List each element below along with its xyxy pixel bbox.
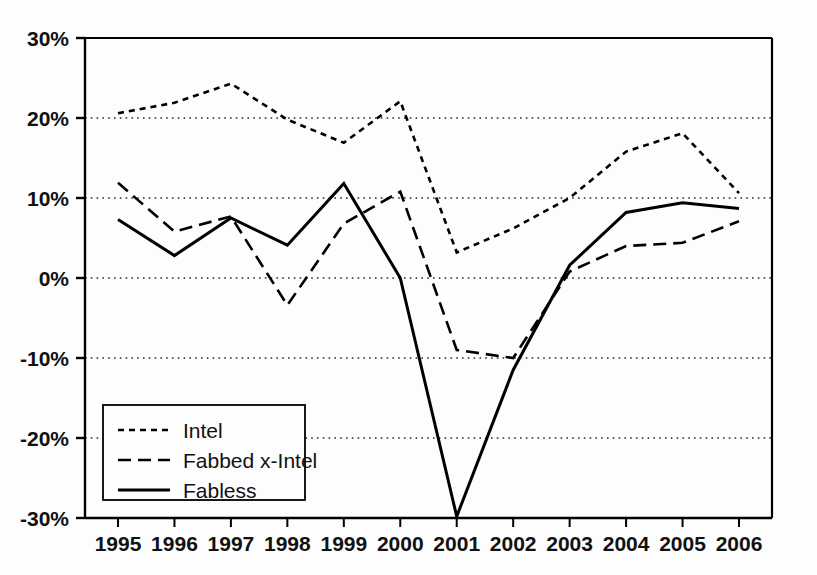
- x-axis-tick-label: 2002: [490, 532, 537, 555]
- x-axis: 1995199619971998199920002001200220032004…: [95, 518, 763, 555]
- x-axis-tick-label: 2006: [716, 532, 763, 555]
- legend-item-label: Intel: [183, 419, 223, 442]
- chart-legend: IntelFabbed x-IntelFabless: [103, 405, 317, 502]
- x-axis-tick-label: 2001: [433, 532, 480, 555]
- y-axis-tick-label: -20%: [20, 427, 69, 450]
- y-axis-tick-label: 20%: [27, 107, 69, 130]
- line-chart: 30%20%10%0%-10%-20%-30% 1995199619971998…: [0, 0, 817, 575]
- legend-item-label: Fabbed x-Intel: [183, 449, 317, 472]
- x-axis-tick-label: 1999: [320, 532, 367, 555]
- x-axis-tick-label: 1998: [264, 532, 311, 555]
- y-axis-tick-label: -10%: [20, 347, 69, 370]
- y-axis-tick-label: 30%: [27, 27, 69, 50]
- y-axis: 30%20%10%0%-10%-20%-30%: [20, 27, 85, 530]
- x-axis-tick-label: 2003: [546, 532, 593, 555]
- x-axis-tick-label: 2000: [377, 532, 424, 555]
- y-axis-tick-label: -30%: [20, 507, 69, 530]
- legend-item-label: Fabless: [183, 479, 257, 502]
- y-axis-tick-label: 10%: [27, 187, 69, 210]
- x-axis-tick-label: 2004: [603, 532, 650, 555]
- x-axis-tick-label: 1996: [151, 532, 198, 555]
- x-axis-tick-label: 1997: [208, 532, 255, 555]
- chart-container: 30%20%10%0%-10%-20%-30% 1995199619971998…: [0, 0, 817, 575]
- y-axis-tick-label: 0%: [39, 267, 70, 290]
- x-axis-tick-label: 2005: [659, 532, 706, 555]
- x-axis-tick-label: 1995: [95, 532, 142, 555]
